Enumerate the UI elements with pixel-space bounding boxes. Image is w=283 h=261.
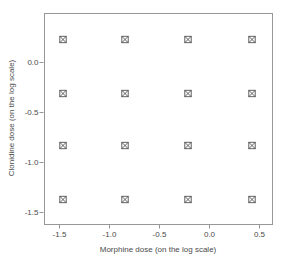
y-tick-label: -1.0 — [25, 158, 39, 167]
data-point-marker — [122, 142, 128, 148]
data-point-marker — [249, 36, 255, 42]
data-point-marker — [122, 196, 128, 202]
plot-box — [45, 14, 273, 225]
data-point-marker — [60, 90, 66, 96]
data-point-marker — [60, 36, 66, 42]
data-point-marker — [122, 36, 128, 42]
y-tick-label: 0.0 — [27, 58, 39, 67]
y-axis-title: Clonidine dose (on the log scale) — [7, 60, 16, 177]
y-tick-label: -1.5 — [25, 208, 39, 217]
plot-svg: -1.5-1.0-0.50.00.50.0-0.5-1.0-1.5 — [0, 0, 283, 261]
data-point-marker — [249, 90, 255, 96]
data-point-marker — [185, 36, 191, 42]
x-tick-label: -1.5 — [53, 230, 67, 239]
data-point-marker — [185, 90, 191, 96]
data-point-marker — [185, 142, 191, 148]
x-tick-label: -0.5 — [153, 230, 167, 239]
y-tick-label: -0.5 — [25, 108, 39, 117]
x-tick-label: -1.0 — [103, 230, 117, 239]
data-point-marker — [60, 196, 66, 202]
data-point-marker — [249, 142, 255, 148]
data-point-marker — [122, 90, 128, 96]
dose-grid-scatter-figure: -1.5-1.0-0.50.00.50.0-0.5-1.0-1.5 Morphi… — [0, 0, 283, 261]
x-tick-label: 0.5 — [254, 230, 266, 239]
x-axis-title: Morphine dose (on the log scale) — [44, 245, 272, 254]
data-point-marker — [185, 196, 191, 202]
data-point-marker — [60, 142, 66, 148]
x-tick-label: 0.0 — [204, 230, 216, 239]
data-point-marker — [249, 196, 255, 202]
